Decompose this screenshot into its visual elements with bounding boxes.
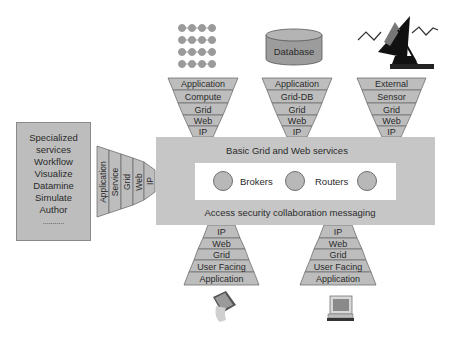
left-layer-label: IP xyxy=(146,177,155,185)
database-label: Database xyxy=(266,47,322,57)
top-layer-label: Grid-DB xyxy=(262,93,332,102)
core-title: Basic Grid and Web services xyxy=(156,146,418,156)
bottom-layer-label: User Facing xyxy=(184,263,259,272)
service-line: services xyxy=(17,144,90,156)
pda-device-icon xyxy=(213,291,236,322)
top-layer-label: IP xyxy=(357,128,426,137)
top-layer-label: Grid xyxy=(357,106,426,115)
top-layer-label: External xyxy=(357,80,426,89)
service-line: Visualize xyxy=(17,168,90,180)
service-line: Simulate xyxy=(17,192,90,204)
core-footer: Access security collaboration messaging xyxy=(156,208,424,218)
node-circle xyxy=(357,171,377,191)
satellite-sensor-icon xyxy=(358,16,438,69)
compute-cluster-icon xyxy=(179,25,216,68)
brokers-label: Brokers xyxy=(240,177,273,187)
top-layer-label: Web xyxy=(262,117,332,126)
top-layer-label: Compute xyxy=(168,93,238,102)
bottom-layer-label: Grid xyxy=(184,251,259,260)
bottom-layer-label: Application xyxy=(184,275,259,284)
top-layer-label: Sensor xyxy=(357,93,426,102)
top-layer-label: Web xyxy=(357,117,426,126)
desktop-computer-icon xyxy=(327,296,354,321)
bottom-layer-label: Application xyxy=(300,275,376,284)
left-layer-label: Application xyxy=(99,161,108,203)
top-layer-label: Application xyxy=(262,80,332,89)
top-layer-label: Application xyxy=(168,80,238,89)
left-layer-label: Grid xyxy=(123,174,132,190)
specialized-services-box: Specialized services Workflow Visualize … xyxy=(16,122,91,241)
service-line: Datamine xyxy=(17,180,90,192)
top-layer-label: Grid xyxy=(262,106,332,115)
bottom-layer-label: IP xyxy=(184,228,259,237)
bottom-layer-label: Web xyxy=(184,240,259,249)
service-line: Author xyxy=(17,204,90,216)
node-circle xyxy=(285,171,305,191)
service-line: Workflow xyxy=(17,156,90,168)
top-layer-label: IP xyxy=(168,128,238,137)
bottom-layer-label: Grid xyxy=(300,251,376,260)
bottom-layer-label: IP xyxy=(300,228,376,237)
bottom-layer-label: Web xyxy=(300,240,376,249)
bottom-layer-label: User Facing xyxy=(300,263,376,272)
node-circle xyxy=(213,171,233,191)
top-layer-label: Web xyxy=(168,117,238,126)
left-layer-label: Service xyxy=(111,168,120,196)
routers-label: Routers xyxy=(315,177,348,187)
top-layer-label: IP xyxy=(262,128,332,137)
service-line: Specialized xyxy=(17,132,90,144)
top-layer-label: Grid xyxy=(168,106,238,115)
service-line-ellipsis: ........... xyxy=(17,216,90,228)
left-layer-label: Web xyxy=(135,173,144,190)
